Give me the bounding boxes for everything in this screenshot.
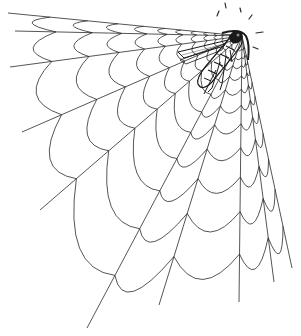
web-ring-segment: [117, 87, 134, 128]
web-radial: [15, 31, 242, 36]
web-ring-segment: [175, 30, 183, 35]
web-ring-segment: [156, 109, 177, 159]
web-ring-segment: [220, 105, 241, 113]
web-ring-segment: [204, 35, 208, 40]
web-ring-segment: [235, 57, 241, 59]
web-ring-segment: [233, 65, 242, 68]
web-ring-segment: [198, 177, 240, 193]
motion-line: [217, 11, 219, 16]
web-ring-segment: [32, 17, 56, 32]
web-ring-segment: [241, 85, 248, 93]
web-ring-segment: [176, 35, 183, 44]
web-ring-segment: [174, 93, 191, 132]
web-ring-segment: [33, 32, 56, 62]
web-ring-segment: [240, 166, 259, 187]
web-ring-segment: [109, 52, 126, 87]
web-ring-segment: [215, 124, 241, 134]
web-ring-segment: [230, 76, 242, 81]
web-ring-segment: [242, 63, 246, 67]
spider-web-illustration: [0, 0, 301, 336]
web-ring-segment: [76, 57, 97, 100]
web-ring-segment: [241, 100, 250, 110]
web-ring-segment: [87, 99, 109, 150]
motion-line: [256, 32, 263, 33]
web-ring-segment: [74, 33, 92, 57]
web-ring-segment: [133, 128, 160, 191]
web-ring-segment: [73, 21, 92, 33]
web-ring-segment: [222, 36, 224, 39]
web-ring-segment: [242, 56, 245, 59]
web-ring-segment: [107, 151, 140, 229]
web-ring-segment: [241, 117, 253, 130]
web-ring-segment: [137, 49, 150, 76]
web-ring-segment: [115, 257, 174, 293]
web-ring-segment: [191, 31, 197, 35]
web-ring-segment: [74, 179, 115, 276]
motion-line: [249, 15, 252, 19]
web-ring-segment: [191, 35, 197, 42]
web-ring-segment: [242, 73, 247, 79]
web-ring-segment: [181, 61, 190, 81]
web-ring-segment: [49, 115, 76, 179]
web-ring-segment: [36, 61, 62, 114]
web-ring-segment: [159, 46, 169, 67]
web-ring-segment: [134, 26, 146, 34]
motion-line: [253, 47, 258, 49]
web-ring-segment: [164, 68, 175, 94]
web-ring-segment: [259, 159, 269, 177]
motion-line: [225, 3, 226, 8]
web-ring-segment: [158, 34, 167, 46]
web-ring-segment: [268, 226, 283, 254]
web-ring-segment: [263, 189, 275, 211]
web-ring-segment: [214, 36, 217, 40]
web-ring-segment: [143, 76, 157, 109]
web-ring-segment: [174, 254, 240, 279]
web-ring-segment: [246, 62, 248, 66]
web-ring-segment: [195, 55, 202, 71]
web-ring-segment: [225, 89, 241, 95]
web-ring-segment: [106, 24, 121, 34]
web-spiral-threads: [32, 17, 283, 292]
web-ring-segment: [158, 28, 168, 34]
web-ring-segment: [207, 148, 241, 161]
web-ring-segment: [241, 139, 256, 155]
web-ring-segment: [107, 33, 122, 52]
fly-icon: [178, 28, 245, 94]
web-ring-segment: [240, 238, 269, 270]
web-ring-segment: [240, 198, 263, 224]
web-ring-segment: [187, 212, 240, 232]
motion-line: [240, 8, 241, 12]
web-ring-segment: [135, 34, 147, 49]
